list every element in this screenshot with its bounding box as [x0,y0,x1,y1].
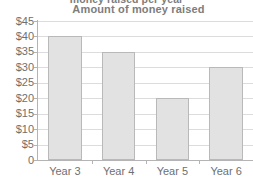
x-axis-tick-label: Year 5 [146,165,200,178]
x-axis-tick-label: Year 3 [38,165,92,178]
x-axis-tick-label: Year 6 [199,165,253,178]
x-axis-tick [199,160,200,164]
plot-area [38,21,253,160]
y-axis-tick-label: 0 [0,155,34,166]
x-axis-tick [92,160,93,164]
y-axis-tick [34,160,38,161]
y-axis-tick-label: $5 [0,139,34,150]
y-axis-tick-label: $10 [0,124,34,135]
y-axis-tick-label: $40 [0,31,34,42]
y-axis-tick [34,52,38,53]
y-axis-tick [34,21,38,22]
y-axis-tick [34,83,38,84]
bar-year-5 [156,98,189,160]
bar-year-6 [209,67,242,160]
y-axis-tick-label: $35 [0,46,34,57]
y-axis-tick-label: $30 [0,62,34,73]
gridline [38,21,253,22]
y-axis-tick [34,114,38,115]
y-axis-tick [34,129,38,130]
y-axis-tick-label: $15 [0,108,34,119]
y-axis-tick [34,36,38,37]
y-axis-tick [34,145,38,146]
y-axis-tick [34,67,38,68]
bar-year-4 [102,52,135,160]
y-axis-tick-label: $45 [0,16,34,27]
y-axis-tick-label: $25 [0,77,34,88]
chart-title: Amount of money raised [24,3,253,15]
x-axis-tick-label: Year 4 [92,165,146,178]
bar-chart: money raised per year Amount of money ra… [0,0,253,182]
y-axis-tick [34,98,38,99]
y-axis-tick-label: $20 [0,93,34,104]
bar-year-3 [48,36,81,160]
x-axis-tick [146,160,147,164]
